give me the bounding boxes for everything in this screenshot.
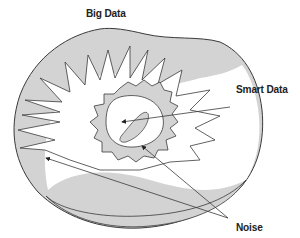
noise-label: Noise bbox=[236, 221, 263, 233]
big-data-diagram bbox=[0, 0, 300, 238]
smart-data-label: Smart Data bbox=[236, 83, 288, 95]
big-data-label: Big Data bbox=[86, 7, 126, 19]
